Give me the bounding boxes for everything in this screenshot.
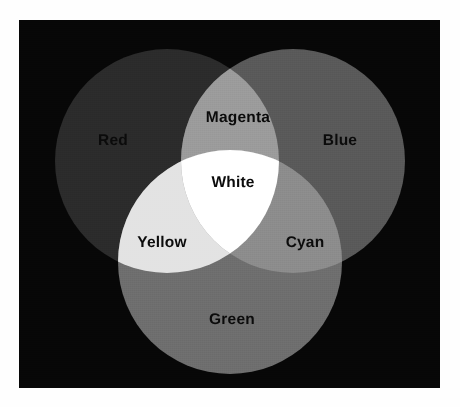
venn-label-white: White [211,174,254,192]
venn-diagram-plate: Red Blue Green Magenta Yellow Cyan White [19,20,440,388]
venn-label-cyan: Cyan [286,234,325,252]
venn-label-green: Green [209,311,255,329]
venn-label-red: Red [98,132,128,150]
venn-label-yellow: Yellow [137,234,186,252]
venn-label-magenta: Magenta [206,109,270,127]
venn-label-blue: Blue [323,132,357,150]
venn-diagram-figure: Red Blue Green Magenta Yellow Cyan White [0,0,460,407]
venn-circles-graphic [19,20,440,388]
